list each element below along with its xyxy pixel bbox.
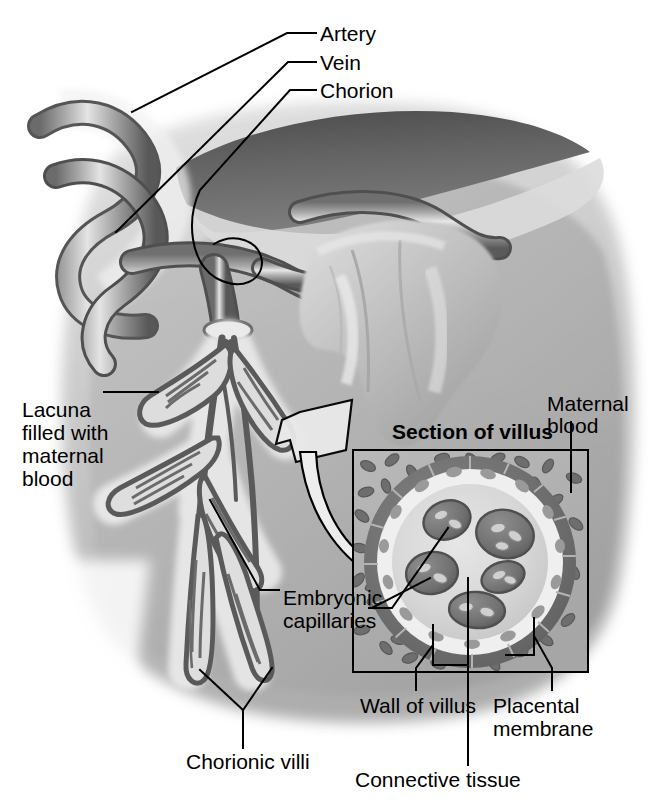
label-maternal-blood-line1: Maternal [547,392,629,415]
label-placental-membrane-line2: membrane [493,717,593,740]
label-embryonic-capillaries-line1: Embryonic [283,586,382,609]
label-artery: Artery [320,22,376,45]
label-maternal-blood-line2: blood [547,414,598,437]
label-section-of-villus: Section of villus [392,420,553,443]
figure-canvas: Artery Vein Chorion Maternal blood Secti… [0,0,648,806]
label-lacuna-line3: maternal [22,444,104,467]
label-chorion: Chorion [320,79,394,102]
label-placental-membrane-line1: Placental [493,694,579,717]
label-vein: Vein [320,51,361,74]
label-lacuna-line4: blood [22,467,73,490]
label-chorionic-villi: Chorionic villi [186,750,310,773]
label-wall-of-villus: Wall of villus [360,694,476,717]
label-lacuna-line1: Lacuna [22,398,91,421]
label-lacuna-line2: filled with [22,421,108,444]
label-embryonic-capillaries-line2: capillaries [283,609,376,632]
leader-artery [132,33,316,112]
villus-cross-section [364,455,576,668]
label-connective-tissue: Connective tissue [355,768,521,791]
edge-fade-bottom-left [0,560,150,806]
